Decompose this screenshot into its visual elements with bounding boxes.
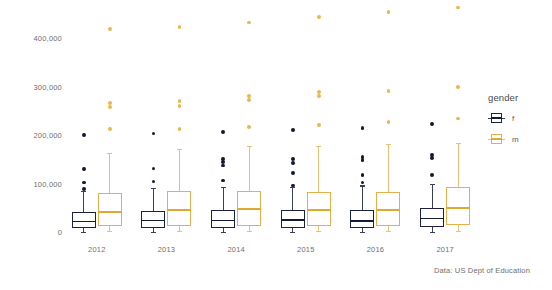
whisker-upper-m [109,153,110,193]
outlier-point-f [291,171,295,175]
legend-label-m: m [512,135,519,144]
outlier-point-m [108,127,112,131]
legend-item-f[interactable]: f [488,109,552,127]
x-axis-tick-label: 2016 [367,245,385,254]
outlier-point-f [221,179,225,183]
outlier-point-f [291,184,295,188]
whisker-cap-lower-m [386,231,391,232]
outlier-point-m [178,104,182,108]
legend-label-f: f [512,114,514,123]
boxplot-group: 2014 [201,0,271,290]
y-axis-tick-label: 0 [0,228,62,237]
box-m [98,193,122,225]
outlier-point-f [361,158,365,162]
whisker-upper-f [223,187,224,210]
outlier-point-m [456,85,460,89]
outlier-point-m [108,105,112,109]
whisker-cap-upper-m [177,149,182,150]
whisker-cap-lower-m [316,231,321,232]
x-axis-tick-label: 2014 [227,245,245,254]
whisker-cap-lower-m [456,231,461,232]
outlier-point-f [430,122,434,126]
outlier-point-f [361,126,365,130]
outlier-point-f [221,164,225,168]
outlier-point-f [361,155,365,159]
whisker-upper-f [292,187,293,209]
whisker-cap-upper-f [360,185,365,186]
median-line-f [211,220,235,222]
legend: gender f m [488,92,552,151]
outlier-point-m [178,99,182,103]
outlier-point-m [178,25,182,29]
box-glyph-m-icon [488,133,505,146]
legend-title: gender [488,92,552,103]
y-axis-tick-label: 200,000 [0,131,62,140]
box-f [350,210,374,227]
outlier-point-f [152,180,156,184]
median-line-m [237,208,261,210]
median-line-f [350,220,374,222]
outlier-point-m [317,123,321,127]
median-line-m [446,207,470,209]
median-line-f [72,221,96,223]
outlier-point-m [178,127,182,131]
outlier-point-f [82,133,86,137]
outlier-point-m [387,89,391,93]
outlier-point-f [291,128,295,132]
y-axis-tick-label: 300,000 [0,82,62,91]
whisker-upper-f [362,185,363,210]
whisker-cap-upper-m [456,143,461,144]
whisker-cap-lower-f [290,232,295,233]
outlier-point-f [361,173,365,177]
whisker-cap-upper-m [316,146,321,147]
outlier-point-f [82,181,86,185]
x-axis-tick-label: 2012 [88,245,106,254]
median-line-m [98,211,122,213]
outlier-point-f [82,187,86,191]
outlier-point-f [430,173,434,177]
whisker-upper-m [249,146,250,191]
whisker-cap-upper-m [386,144,391,145]
outlier-point-m [387,120,391,124]
boxplot-chart: 0100,000200,000300,000400,000 2012201320… [0,0,552,290]
outlier-point-f [152,167,156,171]
y-axis-tick-label: 100,000 [0,179,62,188]
outlier-point-f [361,181,365,185]
y-axis: 0100,000200,000300,000400,000 [0,0,62,290]
boxplot-group: 2016 [341,0,411,290]
outlier-point-f [152,132,156,136]
outlier-point-m [456,117,460,121]
outlier-point-m [456,6,460,10]
outlier-point-m [317,90,321,94]
median-line-m [167,209,191,211]
whisker-cap-upper-f [290,187,295,188]
whisker-cap-upper-f [221,187,226,188]
boxplot-group: 2015 [271,0,341,290]
boxplot-group: 2017 [410,0,480,290]
whisker-upper-m [318,146,319,192]
boxplot-group: 2013 [132,0,202,290]
median-line-m [307,209,331,211]
boxplot-group: 2012 [62,0,132,290]
outlier-point-m [317,15,321,19]
legend-item-m[interactable]: m [488,130,552,148]
whisker-cap-lower-f [151,232,156,233]
whisker-cap-upper-m [247,146,252,147]
whisker-upper-m [458,143,459,187]
whisker-cap-lower-m [107,231,112,232]
y-axis-tick-label: 400,000 [0,34,62,43]
x-axis-tick-label: 2013 [158,245,176,254]
outlier-point-m [247,125,251,129]
x-axis-tick-label: 2017 [436,245,454,254]
source-caption: Data: US Dept of Education [300,266,530,275]
whisker-cap-lower-m [247,231,252,232]
outlier-point-m [247,21,251,25]
whisker-cap-upper-f [430,184,435,185]
median-line-m [376,209,400,211]
outlier-point-f [221,130,225,134]
x-axis-tick-label: 2015 [297,245,315,254]
whisker-upper-f [83,191,84,211]
median-line-f [420,218,444,220]
outlier-point-m [317,94,321,98]
median-line-f [281,219,305,221]
